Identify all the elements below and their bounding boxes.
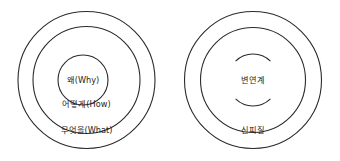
left-inner-label: 왜(Why) (67, 75, 100, 85)
left-diagram-group: 왜(Why) 어떻게(How) 무엇을(What) (18, 12, 155, 149)
right-inner-circle-top-arc (236, 54, 271, 61)
right-diagram-group: 변연계 신피질 (185, 12, 322, 149)
left-middle-label: 어떻게(How) (62, 99, 110, 109)
diagram-canvas: 왜(Why) 어떻게(How) 무엇을(What) 변연계 신피질 (0, 0, 340, 161)
concentric-circles-figure: 왜(Why) 어떻게(How) 무엇을(What) 변연계 신피질 (0, 0, 340, 161)
right-outer-label: 신피질 (241, 125, 265, 135)
right-inner-label: 변연계 (241, 75, 265, 85)
right-inner-circle-bottom-arc (236, 99, 271, 106)
left-outer-label: 무엇을(What) (61, 125, 113, 135)
